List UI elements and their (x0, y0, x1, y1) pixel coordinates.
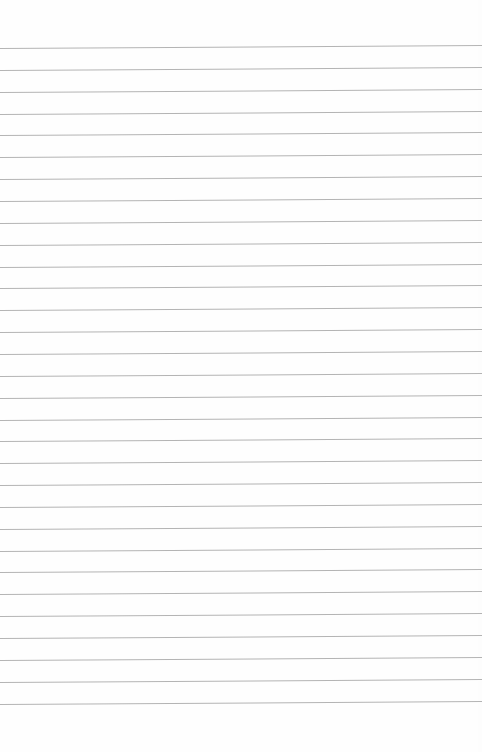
ruled-line (0, 351, 482, 355)
ruled-line (0, 526, 482, 530)
ruled-line (0, 89, 482, 93)
ruled-line (0, 132, 482, 136)
ruled-line (0, 307, 482, 311)
ruled-line (0, 438, 482, 442)
ruled-line (0, 591, 482, 595)
ruled-line (0, 242, 482, 246)
ruled-line (0, 657, 482, 661)
ruled-line (0, 504, 482, 508)
ruled-line (0, 460, 482, 464)
ruled-line (0, 679, 482, 683)
ruled-line (0, 264, 482, 268)
ruled-line (0, 329, 482, 333)
ruled-line (0, 635, 482, 639)
ruled-line (0, 67, 482, 71)
ruled-line (0, 395, 482, 399)
ruled-line (0, 417, 482, 421)
ruled-line (0, 569, 482, 573)
ruled-line (0, 111, 482, 115)
ruled-line (0, 373, 482, 377)
ruled-line (0, 701, 482, 705)
ruled-line (0, 482, 482, 486)
ruled-line (0, 154, 482, 158)
ruled-line (0, 176, 482, 180)
ruled-line (0, 613, 482, 617)
ruled-line (0, 45, 482, 49)
ruled-line (0, 285, 482, 289)
ruled-line (0, 220, 482, 224)
ruled-line (0, 198, 482, 202)
ruled-line (0, 548, 482, 552)
